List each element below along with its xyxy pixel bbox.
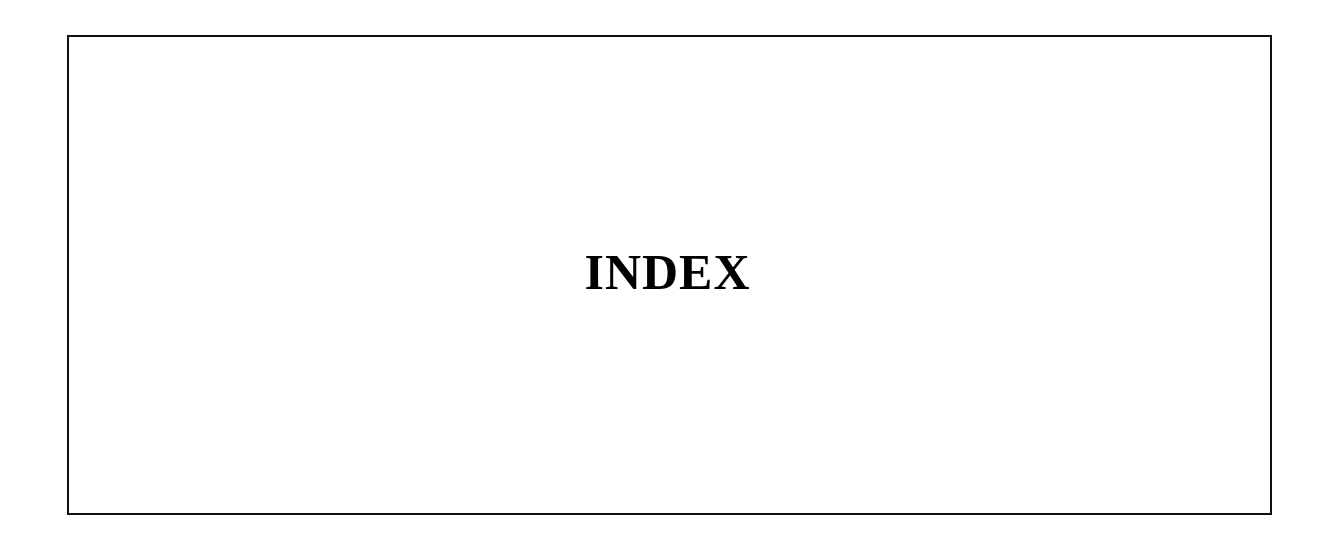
page-title: INDEX bbox=[584, 243, 750, 301]
title-page-frame: INDEX bbox=[67, 35, 1272, 515]
